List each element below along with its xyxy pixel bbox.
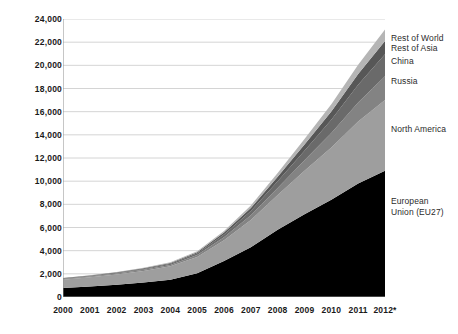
series-label-china: China — [391, 56, 414, 67]
y-tick-label: 4,000 — [18, 246, 62, 256]
plot-svg — [63, 19, 385, 297]
series-label-north-america: North America — [391, 124, 446, 135]
stacked-area-chart: 02,0004,0006,0008,00010,00012,00014,0001… — [0, 0, 458, 334]
x-tick-label: 2002 — [107, 305, 127, 315]
x-tick-label: 2010 — [321, 305, 341, 315]
series-label-rest-of-world: Rest of World — [391, 33, 444, 44]
x-tick-label: 2003 — [134, 305, 154, 315]
y-tick-label: 14,000 — [18, 130, 62, 140]
y-tick-label: 12,000 — [18, 153, 62, 163]
x-tick-label: 2006 — [214, 305, 234, 315]
x-tick-label: 2000 — [53, 305, 73, 315]
y-tick-label: 10,000 — [18, 176, 62, 186]
y-tick-label: 18,000 — [18, 84, 62, 94]
y-tick-label: 0 — [18, 292, 62, 302]
x-tick-label: 2009 — [295, 305, 315, 315]
plot-area — [63, 19, 385, 297]
area-series-group — [63, 29, 385, 297]
series-label-russia: Russia — [391, 76, 418, 87]
y-tick-label: 20,000 — [18, 60, 62, 70]
series-label-european-union: European Union (EU27) — [391, 196, 444, 217]
x-tick-label: 2011 — [349, 305, 368, 315]
x-tick-label: 2004 — [160, 305, 180, 315]
x-tick-label: 2005 — [187, 305, 207, 315]
x-tick-label: 2012* — [373, 305, 396, 315]
x-tick-label: 2008 — [268, 305, 288, 315]
y-tick-label: 24,000 — [18, 14, 62, 24]
series-label-rest-of-asia: Rest of Asia — [391, 43, 438, 54]
y-tick-label: 22,000 — [18, 37, 62, 47]
y-tick-label: 8,000 — [18, 199, 62, 209]
y-tick-label: 2,000 — [18, 269, 62, 279]
y-tick-label: 6,000 — [18, 223, 62, 233]
x-tick-label: 2007 — [241, 305, 261, 315]
y-tick-label: 16,000 — [18, 107, 62, 117]
x-tick-label: 2001 — [80, 305, 100, 315]
